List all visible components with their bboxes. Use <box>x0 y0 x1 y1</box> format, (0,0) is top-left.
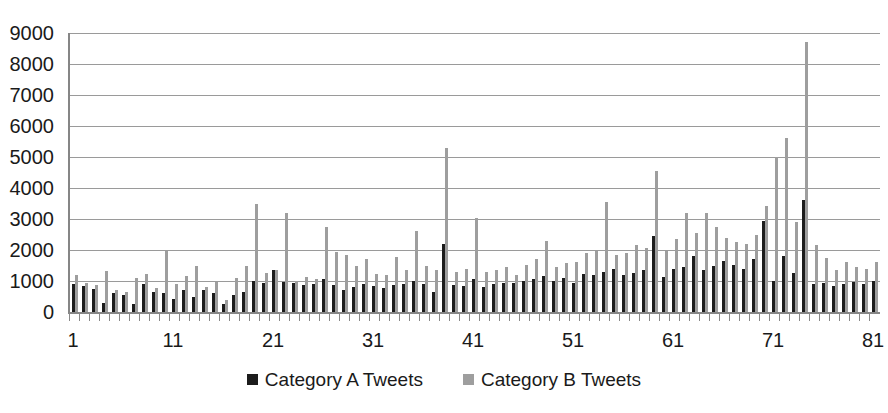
x-axis-tick <box>299 312 300 321</box>
bar-group <box>202 33 208 312</box>
bar-category-b <box>145 274 148 312</box>
x-axis-tick-label: 11 <box>163 330 184 350</box>
bar-group <box>732 33 738 312</box>
x-axis-tick <box>149 312 150 321</box>
bar-category-b <box>625 253 628 312</box>
y-axis-tick-label: 8000 <box>10 54 55 74</box>
x-axis-tick <box>629 312 630 321</box>
bar-group <box>352 33 358 312</box>
bar-category-a <box>262 283 265 312</box>
bar-group <box>242 33 248 312</box>
bar-category-b <box>155 288 158 312</box>
x-axis-tick <box>509 312 510 321</box>
bar-category-a <box>212 293 215 312</box>
x-axis-tick <box>519 312 520 321</box>
bar-category-b <box>435 270 438 312</box>
x-axis-tick <box>539 312 540 321</box>
x-axis-tick <box>379 312 380 321</box>
bar-group <box>252 33 258 312</box>
x-axis-tick-label: 81 <box>862 330 884 350</box>
bar-category-a <box>682 267 685 312</box>
bar-category-a <box>122 295 125 312</box>
bar-category-a <box>492 284 495 312</box>
x-axis-tick <box>489 312 490 321</box>
chart-legend: Category A Tweets Category B Tweets <box>0 370 888 389</box>
x-axis-tick <box>699 312 700 321</box>
bar-category-a <box>592 275 595 312</box>
bar-category-a <box>342 290 345 312</box>
bar-group <box>292 33 298 312</box>
bar-group <box>722 33 728 312</box>
bar-category-b <box>275 270 278 312</box>
bar-category-a <box>132 304 135 312</box>
x-axis-tick <box>399 312 400 321</box>
bar-group <box>372 33 378 312</box>
bar-category-a <box>442 244 445 312</box>
bar-group <box>522 33 528 312</box>
x-axis-tick <box>609 312 610 321</box>
bar-category-b <box>775 157 778 312</box>
bar-category-a <box>412 281 415 312</box>
bar-group <box>392 33 398 312</box>
y-axis-tick-label: 3000 <box>10 209 55 229</box>
x-axis-tick <box>119 312 120 321</box>
x-axis-tick <box>819 312 820 321</box>
x-axis-tick <box>249 312 250 321</box>
bar-category-a <box>102 303 105 312</box>
bar-category-b <box>395 257 398 312</box>
bar-category-b <box>325 227 328 312</box>
bar-group <box>142 33 148 312</box>
bar-category-a <box>392 285 395 312</box>
bar-category-b <box>655 171 658 312</box>
bar-category-a <box>72 284 75 312</box>
x-axis-tick-label: 61 <box>662 330 684 350</box>
bar-category-b <box>215 282 218 312</box>
bar-group <box>262 33 268 312</box>
x-axis-tick <box>619 312 620 321</box>
bar-category-b <box>665 251 668 312</box>
x-axis-tick <box>589 312 590 321</box>
bar-category-b <box>345 255 348 312</box>
bar-group <box>822 33 828 312</box>
x-axis-tick <box>259 312 260 321</box>
bar-category-a <box>862 284 865 312</box>
bar-category-b <box>755 235 758 312</box>
bar-category-a <box>322 279 325 312</box>
bar-category-a <box>432 292 435 312</box>
bar-category-b <box>585 253 588 312</box>
x-axis-tick <box>779 312 780 321</box>
bar-category-a <box>812 284 815 312</box>
bar-category-b <box>765 206 768 312</box>
bar-category-b <box>605 202 608 312</box>
bar-group <box>512 33 518 312</box>
legend-swatch-icon-category-b <box>463 374 474 385</box>
bar-group <box>662 33 668 312</box>
bar-group <box>472 33 478 312</box>
x-axis-tick <box>719 312 720 321</box>
bar-category-a <box>762 221 765 312</box>
bar-category-a <box>282 282 285 312</box>
y-axis-tick-label: 1000 <box>10 271 55 291</box>
bar-category-b <box>575 262 578 312</box>
bar-category-b <box>865 269 868 312</box>
y-axis: 9000800070006000500040003000200010000 <box>0 0 62 330</box>
bar-category-b <box>235 278 238 312</box>
bar-category-a <box>692 256 695 312</box>
bar-group <box>482 33 488 312</box>
bar-category-a <box>752 259 755 312</box>
bar-group <box>672 33 678 312</box>
bar-category-b <box>405 270 408 312</box>
x-axis-tick <box>339 312 340 321</box>
bar-group <box>612 33 618 312</box>
bar-category-a <box>722 261 725 312</box>
x-axis-tick <box>849 312 850 321</box>
bar-category-b <box>595 251 598 312</box>
bar-group <box>322 33 328 312</box>
bar-category-a <box>842 284 845 312</box>
x-axis-tick <box>329 312 330 321</box>
bar-category-b <box>695 233 698 312</box>
bar-category-a <box>652 236 655 312</box>
bar-category-a <box>202 290 205 312</box>
bar-category-b <box>335 252 338 312</box>
bar-category-a <box>362 284 365 312</box>
